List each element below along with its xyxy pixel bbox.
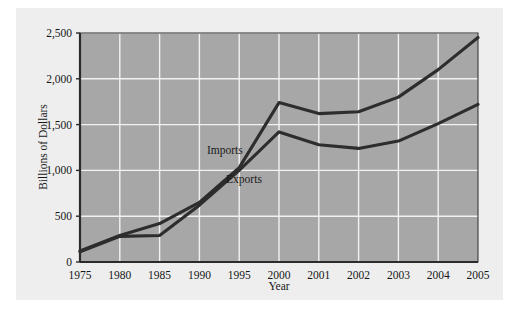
x-axis-tick-label: 1975 <box>69 269 92 281</box>
x-axis-tick-label: 2002 <box>347 269 370 281</box>
series-annotation: Exports <box>226 173 262 186</box>
x-axis-tick-label: 2005 <box>467 269 490 281</box>
y-axis-tick-label: 2,500 <box>46 27 72 40</box>
x-axis-tick-label: 1980 <box>108 269 131 281</box>
y-axis-title: Billions of Dollars <box>37 104 49 190</box>
y-axis-tick-label: 1,500 <box>46 119 72 132</box>
y-axis-tick-labels: 05001,0001,5002,0002,500 <box>46 27 72 268</box>
y-axis-tick-label: 2,000 <box>46 73 72 86</box>
x-axis-tick-label: 1990 <box>188 269 211 281</box>
x-axis-tick-label: 2004 <box>427 269 450 281</box>
x-axis-tick-label: 1995 <box>228 269 251 281</box>
x-axis-tick-label: 2001 <box>307 269 330 281</box>
y-axis-tick-label: 0 <box>66 256 72 268</box>
y-axis-tick-label: 500 <box>55 210 73 222</box>
x-axis-title: Year <box>268 280 289 292</box>
x-axis-tick-label: 2003 <box>387 269 410 281</box>
series-annotation: Imports <box>207 144 243 157</box>
line-chart: 05001,0001,5002,0002,500 197519801985199… <box>0 0 518 314</box>
y-axis-tick-label: 1,000 <box>46 164 72 177</box>
x-axis-tick-label: 1985 <box>148 269 171 281</box>
chart-svg: 05001,0001,5002,0002,500 197519801985199… <box>0 0 518 314</box>
